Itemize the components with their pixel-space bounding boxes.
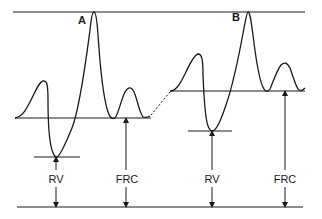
- rv-label-a: RV: [48, 173, 64, 185]
- frc-label-a: FRC: [116, 173, 139, 185]
- spirometry-diagram: A B RV FRC RV FRC: [0, 0, 322, 219]
- rv-label-b: RV: [204, 173, 220, 185]
- dashed-connector: [151, 92, 170, 115]
- panel-label-b: B: [232, 11, 240, 23]
- panel-label-a: A: [78, 14, 86, 26]
- spirogram-trace-a: [15, 12, 150, 157]
- frc-label-b: FRC: [274, 173, 297, 185]
